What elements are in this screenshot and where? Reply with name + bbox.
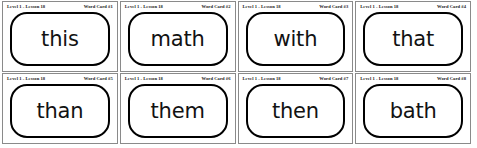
word-card[interactable]: Level 1 - Lesson 18 Word Card #3 with — [238, 1, 354, 72]
word-card-grid: Level 1 - Lesson 18 Word Card #1 this Le… — [2, 1, 471, 144]
word-frame: that — [363, 12, 463, 66]
card-body: that — [359, 11, 467, 68]
card-number-label: Word Card #4 — [437, 4, 466, 10]
word-card[interactable]: Level 1 - Lesson 18 Word Card #4 that — [355, 1, 471, 72]
word-text: bath — [390, 100, 437, 122]
word-text: with — [273, 28, 317, 50]
lesson-label: Level 1 - Lesson 18 — [243, 4, 281, 10]
card-body: than — [6, 83, 114, 140]
word-text: math — [151, 28, 205, 50]
word-frame: than — [10, 84, 110, 138]
word-card-sheet: Level 1 - Lesson 18 Word Card #1 this Le… — [0, 0, 477, 148]
card-body: then — [242, 83, 350, 140]
card-number-label: Word Card #8 — [437, 76, 466, 82]
card-number-label: Word Card #7 — [319, 76, 348, 82]
word-card[interactable]: Level 1 - Lesson 18 Word Card #2 math — [120, 1, 236, 72]
lesson-label: Level 1 - Lesson 18 — [125, 76, 163, 82]
lesson-label: Level 1 - Lesson 18 — [360, 76, 398, 82]
word-card[interactable]: Level 1 - Lesson 18 Word Card #7 then — [238, 73, 354, 144]
word-text: then — [272, 100, 319, 122]
card-body: with — [242, 11, 350, 68]
word-card[interactable]: Level 1 - Lesson 18 Word Card #5 than — [2, 73, 118, 144]
card-number-label: Word Card #1 — [84, 4, 113, 10]
word-text: them — [151, 100, 205, 122]
card-body: math — [124, 11, 232, 68]
lesson-label: Level 1 - Lesson 18 — [7, 76, 45, 82]
card-number-label: Word Card #6 — [202, 76, 231, 82]
card-body: this — [6, 11, 114, 68]
lesson-label: Level 1 - Lesson 18 — [243, 76, 281, 82]
lesson-label: Level 1 - Lesson 18 — [7, 4, 45, 10]
card-number-label: Word Card #3 — [319, 4, 348, 10]
word-text: this — [41, 28, 79, 50]
card-number-label: Word Card #5 — [84, 76, 113, 82]
word-frame: this — [10, 12, 110, 66]
card-header: Level 1 - Lesson 18 Word Card #1 — [6, 4, 114, 11]
word-card[interactable]: Level 1 - Lesson 18 Word Card #1 this — [2, 1, 118, 72]
card-header: Level 1 - Lesson 18 Word Card #2 — [124, 4, 232, 11]
card-header: Level 1 - Lesson 18 Word Card #8 — [359, 76, 467, 83]
card-body: them — [124, 83, 232, 140]
card-body: bath — [359, 83, 467, 140]
word-frame: then — [246, 84, 346, 138]
word-text: than — [36, 100, 83, 122]
card-header: Level 1 - Lesson 18 Word Card #5 — [6, 76, 114, 83]
word-card[interactable]: Level 1 - Lesson 18 Word Card #6 them — [120, 73, 236, 144]
card-header: Level 1 - Lesson 18 Word Card #7 — [242, 76, 350, 83]
word-frame: with — [246, 12, 346, 66]
lesson-label: Level 1 - Lesson 18 — [360, 4, 398, 10]
word-frame: math — [128, 12, 228, 66]
card-number-label: Word Card #2 — [202, 4, 231, 10]
word-text: that — [392, 28, 434, 50]
word-card[interactable]: Level 1 - Lesson 18 Word Card #8 bath — [355, 73, 471, 144]
word-frame: bath — [363, 84, 463, 138]
word-frame: them — [128, 84, 228, 138]
lesson-label: Level 1 - Lesson 18 — [125, 4, 163, 10]
card-header: Level 1 - Lesson 18 Word Card #3 — [242, 4, 350, 11]
card-header: Level 1 - Lesson 18 Word Card #4 — [359, 4, 467, 11]
card-header: Level 1 - Lesson 18 Word Card #6 — [124, 76, 232, 83]
